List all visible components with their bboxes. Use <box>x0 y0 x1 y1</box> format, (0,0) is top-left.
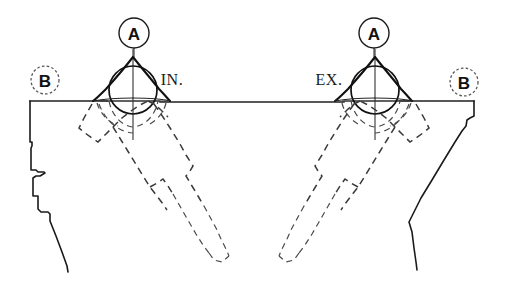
callout-b-left-label: B <box>39 72 51 91</box>
left-wall-profile-path <box>30 101 68 272</box>
callout-a-right-label: A <box>368 25 380 44</box>
intake-valve-port-throat-right <box>150 103 166 124</box>
intake-valve-head-hidden-underside-inner <box>99 104 133 133</box>
exhaust-valve-stem-lower-right <box>299 194 335 253</box>
exhaust-valve-stem-outer-right <box>395 104 429 142</box>
right-wall-profile-path <box>409 101 474 270</box>
callout-a-right[interactable]: A <box>359 18 389 48</box>
intake-valve-guide-right-side <box>154 104 204 206</box>
intake-valve-group <box>79 49 229 262</box>
intake-valve-stem-tip <box>209 253 229 262</box>
intake-valve-stem-lower-left <box>173 194 209 253</box>
callout-b-right-label: B <box>458 74 470 93</box>
exhaust-valve-stem-tip <box>279 253 299 262</box>
intake-valve-stem-lower-right <box>204 206 229 256</box>
exhaust-valve-group <box>279 49 429 262</box>
intake-valve-crown-profile <box>93 57 133 101</box>
diagram-canvas: A A B B IN. EX. <box>0 0 506 283</box>
exhaust-valve-guide-right-side <box>341 127 395 210</box>
intake-valve-stem-outer-left <box>79 104 113 142</box>
callout-a-left[interactable]: A <box>119 18 149 48</box>
intake-valve-guide-left-side <box>113 127 167 210</box>
exhaust-valve-guide-left-side <box>304 104 354 206</box>
callout-a-left-label: A <box>128 25 140 44</box>
callout-b-left[interactable]: B <box>31 66 59 94</box>
exhaust-port-label: EX. <box>315 71 342 88</box>
valve-arrangement-drawing: A A B B IN. EX. <box>0 0 506 283</box>
exhaust-valve-crown-profile-right <box>375 57 412 101</box>
intake-port-label: IN. <box>161 71 184 88</box>
left-casting-wall <box>30 101 68 272</box>
right-casting-wall <box>409 101 474 270</box>
exhaust-valve-stem-lower-left <box>279 206 304 256</box>
callout-b-right[interactable]: B <box>450 68 478 96</box>
callout-leaders <box>134 48 374 57</box>
